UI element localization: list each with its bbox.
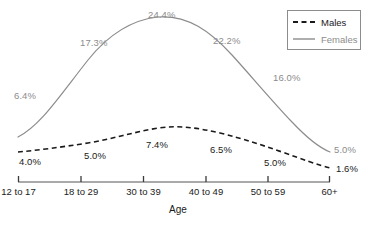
series-line-females <box>18 17 330 152</box>
data-label-males-50-to-59: 5.0% <box>264 157 286 168</box>
data-label-males-40-to-49: 6.5% <box>210 144 232 155</box>
line-chart: 6.4% 17.3% 24.4% 22.2% 16.0% 5.0% 4.0% 5… <box>0 0 368 230</box>
legend-item-females: Females <box>293 33 357 45</box>
data-label-males-30-to-39: 7.4% <box>146 139 168 150</box>
x-tick-label-60-plus: 60+ <box>321 186 337 197</box>
x-tick-label-12-to-17: 12 to 17 <box>1 186 35 197</box>
legend-label-males: Males <box>321 17 346 28</box>
data-label-females-12-to-17: 6.4% <box>14 90 36 101</box>
data-label-males-60-plus: 1.6% <box>336 163 358 174</box>
x-tick-label-40-to-49: 40 to 49 <box>189 186 223 197</box>
data-label-males-12-to-17: 4.0% <box>19 156 41 167</box>
data-label-females-18-to-29: 17.3% <box>80 37 107 48</box>
x-axis-title: Age <box>169 204 187 216</box>
x-tick-label-18-to-29: 18 to 29 <box>64 186 98 197</box>
legend-item-males: Males <box>293 16 346 28</box>
x-tick-label-50-to-59: 50 to 59 <box>251 186 285 197</box>
data-label-males-18-to-29: 5.0% <box>84 150 106 161</box>
legend-solid-line-icon <box>293 35 315 43</box>
data-label-females-40-to-49: 22.2% <box>213 35 240 46</box>
chart-legend: Males Females <box>287 10 361 50</box>
x-tick-label-30-to-39: 30 to 39 <box>126 186 160 197</box>
data-label-females-60-plus: 5.0% <box>334 144 356 155</box>
legend-dashed-line-icon <box>293 18 315 26</box>
data-label-females-50-to-59: 16.0% <box>273 72 300 83</box>
data-label-females-30-to-39: 24.4% <box>148 9 175 20</box>
legend-label-females: Females <box>321 34 357 45</box>
